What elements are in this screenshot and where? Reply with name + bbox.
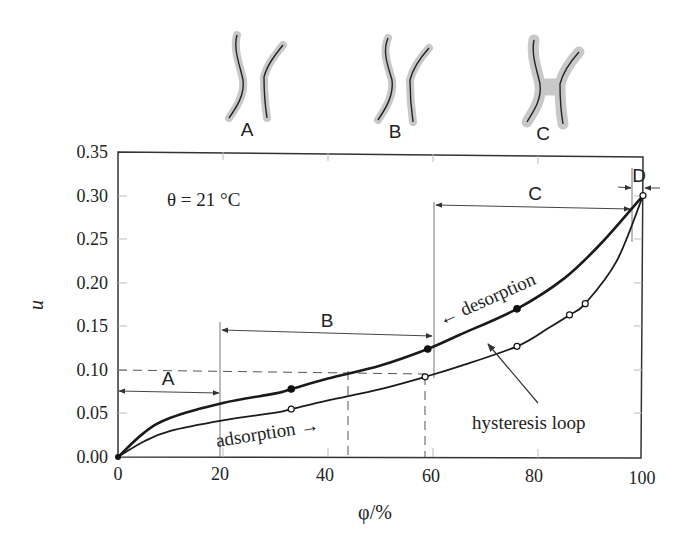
temperature-annotation: θ = 21 °C	[167, 189, 240, 210]
y-tick-label: 0.25	[77, 229, 109, 249]
adsorption-data-point	[567, 312, 573, 318]
x-tick-label: 20	[211, 464, 229, 484]
adsorption-data-point	[514, 343, 520, 349]
y-tick-label: 0.05	[77, 403, 109, 423]
adsorption-data-point	[640, 193, 646, 199]
desorption-data-point	[288, 386, 294, 392]
desorption-data-point	[425, 346, 431, 352]
region-label-c: C	[528, 183, 542, 204]
y-tick-label: 0.20	[77, 273, 109, 293]
x-tick-label: 80	[525, 466, 543, 486]
x-tick-label: 40	[316, 465, 334, 485]
hysteresis-loop-label: hysteresis loop	[472, 412, 585, 433]
sorption-isotherm-figure: A B C 0.35 0.30 0.25 0.20 0.15 0.10 0.05…	[0, 0, 686, 553]
desorption-markers	[115, 306, 520, 460]
y-tick-label: 0.35	[77, 142, 109, 162]
x-tick-label: 0	[114, 464, 123, 484]
y-tick-label: 0.10	[77, 360, 109, 380]
pore-sketch-a	[229, 35, 283, 118]
region-label-a: A	[162, 368, 175, 389]
pore-label-c: C	[536, 123, 550, 144]
y-tick-label: 0.00	[77, 447, 109, 467]
region-label-b: B	[321, 310, 334, 331]
adsorption-data-point	[288, 406, 294, 412]
region-label-d: D	[632, 165, 646, 186]
y-tick-label: 0.30	[77, 186, 109, 206]
adsorption-data-point	[582, 301, 588, 307]
y-axis-label: u	[25, 300, 47, 310]
desorption-label: ← desorption	[435, 268, 539, 330]
desorption-data-point	[514, 306, 520, 312]
x-tick-label: 100	[629, 468, 656, 488]
pore-label-b: B	[389, 121, 402, 142]
pore-label-a: A	[241, 119, 254, 140]
x-tick-label: 60	[422, 466, 440, 486]
adsorption-data-point	[422, 374, 428, 380]
hysteresis-arrow	[488, 344, 538, 403]
x-axis-label: φ/%	[358, 501, 392, 524]
pore-sketch-b	[378, 38, 429, 122]
y-tick-label: 0.15	[77, 316, 109, 336]
pore-sketch-c	[527, 40, 579, 124]
origin-point	[115, 454, 121, 460]
